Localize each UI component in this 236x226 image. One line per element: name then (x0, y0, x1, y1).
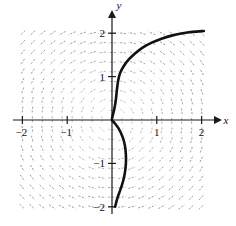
slope-field-segment (90, 107, 93, 114)
slope-field-segment (141, 126, 143, 133)
slope-field-segment (69, 166, 75, 171)
slope-field-segment (160, 136, 163, 143)
slope-field-segment (181, 136, 183, 143)
slope-field-segment (181, 97, 183, 104)
slope-field-segment (190, 145, 193, 152)
slope-field-segment (191, 107, 192, 114)
slope-field-segment (98, 90, 105, 92)
slope-field-segment (60, 79, 65, 85)
slope-field-segment (59, 31, 66, 35)
slope-field-segment (170, 156, 174, 162)
slope-field-segment (80, 98, 84, 104)
slope-field-segment (169, 175, 174, 180)
slope-field-segment (151, 126, 153, 133)
slope-field-segment (39, 40, 45, 45)
slope-field-segment (32, 107, 33, 114)
slope-field-segment (149, 51, 156, 55)
slope-field-segment (69, 186, 76, 190)
slope-field-segment (180, 155, 184, 161)
slope-field-segment (40, 185, 45, 190)
slope-field-segment (139, 70, 146, 74)
slope-field-segment (20, 185, 25, 191)
slope-field-segment (148, 32, 155, 35)
slope-field-segment (79, 196, 86, 199)
slope-field-segment (180, 78, 184, 84)
slope-field-segment (31, 88, 34, 95)
slope-field-segment (42, 107, 43, 114)
slope-field-segment (199, 40, 204, 46)
slope-field-segment (161, 126, 162, 133)
y-axis-arrow-icon (108, 10, 116, 18)
slope-field-segment (179, 59, 184, 65)
slope-field-segment (60, 156, 65, 162)
slope-field-segment (118, 33, 126, 34)
slope-field-segment (180, 146, 183, 153)
slope-field-segment (138, 206, 145, 208)
slope-field-segment (189, 59, 194, 65)
slope-field-segment (79, 176, 86, 179)
slope-field-segment (40, 69, 44, 75)
slope-field-segment (41, 97, 43, 104)
slope-field-segment (161, 107, 162, 114)
slope-field-segment (69, 51, 76, 55)
slope-field-segment (200, 145, 202, 152)
slope-field-segment (170, 78, 174, 84)
slope-field-segment (98, 177, 106, 178)
slope-field-segment (61, 107, 62, 114)
slope-field-segment (89, 89, 95, 93)
slope-field-segment (171, 136, 173, 143)
slope-field-segment (79, 88, 84, 93)
slope-field-segment (149, 176, 155, 180)
slope-field-segment (59, 176, 65, 181)
slope-field-segment (179, 175, 184, 181)
y-tick-label: 2 (100, 27, 106, 39)
slope-field-segment (79, 51, 86, 54)
slope-field-segment (70, 146, 75, 152)
slope-field-segment (30, 40, 35, 45)
slope-field-segment (31, 155, 34, 162)
slope-field-segment (190, 69, 194, 75)
slope-field-segment (79, 79, 85, 83)
slope-field-segment (190, 155, 193, 162)
slope-field-segment (69, 205, 76, 208)
slope-field-segment (80, 136, 84, 142)
slope-field-segment (30, 59, 35, 65)
slope-field-segment (69, 32, 76, 35)
slope-field-segment (21, 165, 25, 171)
slope-field-segment (199, 175, 203, 181)
slope-field-segment (191, 126, 192, 133)
slope-field-segment (139, 166, 146, 170)
slope-field-segment (151, 107, 153, 114)
slope-field-segment (39, 205, 45, 210)
slope-field-segment (179, 185, 184, 190)
slope-field-segment (128, 206, 135, 208)
slope-field-segment (200, 88, 202, 95)
slope-field-segment (190, 78, 193, 85)
slope-field-segment (88, 51, 95, 53)
slope-field-segment (51, 136, 53, 143)
slope-field-segment (201, 97, 203, 104)
slope-field-segment (190, 165, 194, 171)
slope-field-segment (20, 31, 25, 36)
slope-field-segment (51, 88, 54, 95)
slope-field-segment (69, 176, 75, 180)
slope-field-segment (170, 88, 173, 95)
slope-field-segment (150, 97, 153, 104)
slope-field-segment (149, 166, 155, 171)
slope-field-segment (118, 197, 126, 198)
slope-field-segment (189, 185, 194, 191)
slope-field-segment (118, 52, 126, 53)
slope-field-segment (191, 97, 193, 104)
y-tick-label: 1 (100, 71, 106, 83)
slope-field-segment (179, 40, 185, 45)
slope-field-segment (49, 41, 55, 45)
slope-field-segment (189, 195, 194, 200)
slope-field-segment (98, 62, 106, 63)
slope-field-segment (21, 155, 24, 162)
x-axis-arrow-icon (214, 116, 222, 124)
slope-field-segment (139, 79, 145, 83)
slope-field-segment (201, 107, 202, 114)
slope-field-segment (59, 195, 65, 199)
slope-field-segment (40, 175, 45, 181)
slope-field-segment (159, 69, 164, 74)
